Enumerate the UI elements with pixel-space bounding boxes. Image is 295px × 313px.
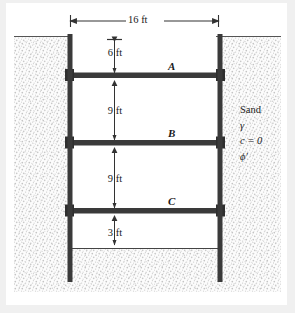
left-sheet-pile-wall[interactable] <box>68 34 73 282</box>
strut-member-b[interactable] <box>70 140 222 146</box>
soil-below-base-texture <box>68 248 222 292</box>
soil-label-name: Sand <box>240 105 261 116</box>
dimension-label-9ft-ab: 9 ft <box>96 106 134 117</box>
strut-member-a[interactable] <box>70 73 222 79</box>
soil-left-texture <box>14 36 68 292</box>
dimension-label-9ft-bc: 9 ft <box>96 174 134 185</box>
strut-label-a: A <box>168 61 175 72</box>
top-dimension-label: 16 ft <box>128 15 148 26</box>
strut-label-b: B <box>168 128 175 139</box>
right-sheet-pile-wall[interactable] <box>218 34 223 282</box>
strut-label-c: C <box>168 196 175 207</box>
soil-label-friction-angle: ϕ′ <box>240 152 248 163</box>
diagram-canvas <box>0 0 295 313</box>
dimension-label-6ft: 6 ft <box>96 48 134 59</box>
soil-label-unit-weight: γ <box>240 121 244 132</box>
dimension-label-3ft: 3 ft <box>96 228 134 239</box>
figure-container: 16 ft 6 ft 9 ft 9 ft 3 ft A B C Sand γ c… <box>0 0 295 313</box>
struts-group <box>70 73 222 214</box>
strut-member-c[interactable] <box>70 208 222 214</box>
sheet-pile-walls-group <box>68 34 223 282</box>
soil-label-cohesion: c = 0 <box>240 136 262 147</box>
soil-right-texture <box>222 36 281 292</box>
